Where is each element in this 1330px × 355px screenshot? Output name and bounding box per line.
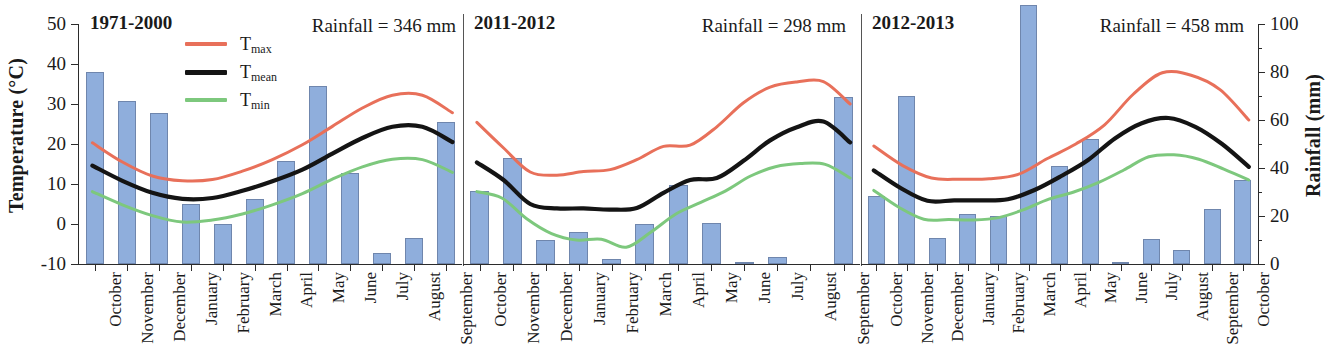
legend-item-Tmax: Tmax xyxy=(185,36,272,52)
x-tick-label-text: May xyxy=(330,272,347,303)
y-tick-mark-left xyxy=(71,264,78,265)
x-tick-label-text: December xyxy=(171,272,188,342)
x-tick-mark xyxy=(446,265,447,271)
legend-swatch-Tmin xyxy=(185,98,227,102)
x-tick-label-text: August xyxy=(1194,272,1211,321)
x-tick-label-text: July xyxy=(1163,272,1180,300)
y-tick-label-left: 10 xyxy=(47,174,66,193)
panel-2012-2013: 2012-2013Rainfall = 458 mmOctoberNovembe… xyxy=(861,0,1258,275)
legend-label-subscript: min xyxy=(251,98,270,112)
x-tick-mark xyxy=(95,265,96,271)
x-tick-mark xyxy=(127,265,128,271)
temperature-curves xyxy=(463,0,860,300)
y-axis-title-right-text: Rainfall (mm) xyxy=(1303,73,1326,196)
x-tick-label-text: September xyxy=(1224,272,1241,345)
legend: TmaxTmeanTmin xyxy=(185,36,305,106)
x-tick-label-text: November xyxy=(525,272,542,344)
y-tick-label-right: 0 xyxy=(1270,254,1280,273)
legend-label-subscript: max xyxy=(251,42,272,56)
legend-swatch-Tmean xyxy=(185,70,227,75)
x-tick-mark xyxy=(998,265,999,271)
x-tick-mark xyxy=(876,265,877,271)
x-tick-mark xyxy=(223,265,224,271)
x-tick-mark xyxy=(907,265,908,271)
x-tick-mark xyxy=(711,265,712,271)
x-tick-mark xyxy=(1090,265,1091,271)
x-tick-mark xyxy=(645,265,646,271)
y-axis-title-left-text: Temperature (°C) xyxy=(6,57,29,212)
x-tick-label-text: October xyxy=(888,272,905,327)
y-tick-label-left: 20 xyxy=(47,134,66,153)
y-tick-mark-left xyxy=(71,144,78,145)
series-line-Tmin xyxy=(874,155,1249,221)
x-tick-mark xyxy=(777,265,778,271)
axis-spine-right xyxy=(1258,24,1259,265)
legend-label-Tmax: Tmax xyxy=(240,35,272,53)
y-tick-mark-left xyxy=(71,224,78,225)
x-tick-mark xyxy=(546,265,547,271)
x-tick-label-text: May xyxy=(723,272,740,303)
panel-2011-2012: 2011-2012Rainfall = 298 mmOctoberNovembe… xyxy=(463,0,860,275)
x-tick-mark xyxy=(810,265,811,271)
series-line-Tmean xyxy=(874,118,1249,202)
y-axis-title-left: Temperature (°C) xyxy=(2,0,32,270)
x-tick-mark xyxy=(159,265,160,271)
climate-chart-figure: Temperature (°C) Rainfall (mm) 504030201… xyxy=(0,0,1330,355)
x-tick-label-text: March xyxy=(1041,272,1058,316)
x-tick-mark xyxy=(937,265,938,271)
y-tick-mark-right xyxy=(1258,72,1265,73)
x-tick-label-text: March xyxy=(657,272,674,316)
x-tick-label-text: April xyxy=(298,272,315,308)
x-tick-mark xyxy=(414,265,415,271)
y-tick-mark-left xyxy=(71,64,78,65)
x-tick-mark xyxy=(744,265,745,271)
y-tick-label-left: 0 xyxy=(57,214,67,233)
x-tick-mark xyxy=(1121,265,1122,271)
y-tick-label-left: 50 xyxy=(47,14,66,33)
legend-item-Tmin: Tmin xyxy=(185,92,270,108)
x-axis-labels: OctoberNovemberDecemberJanuaryFebruaryMa… xyxy=(463,272,860,355)
x-axis-labels: OctoberNovemberDecemberJanuaryFebruaryMa… xyxy=(861,272,1258,355)
x-tick-mark xyxy=(1182,265,1183,271)
x-tick-label-text: January xyxy=(203,272,220,325)
x-tick-mark xyxy=(1243,265,1244,271)
x-tick-label-text: February xyxy=(235,272,252,333)
x-tick-label-text: March xyxy=(267,272,284,316)
y-tick-label-left: -10 xyxy=(41,254,66,273)
x-tick-label-text: August xyxy=(822,272,839,321)
x-tick-mark xyxy=(287,265,288,271)
y-tick-label-right: 80 xyxy=(1270,62,1289,81)
legend-label-Tmean: Tmean xyxy=(240,63,277,81)
y-tick-label-right: 20 xyxy=(1270,206,1289,225)
x-tick-label-text: October xyxy=(107,272,124,327)
y-axis-right: 100806040200 xyxy=(1258,0,1304,275)
series-line-Tmean xyxy=(92,125,452,199)
x-tick-label-text: October xyxy=(1255,272,1272,327)
x-tick-label-text: January xyxy=(980,272,997,325)
x-tick-label-text: July xyxy=(789,272,806,300)
x-tick-label-text: November xyxy=(139,272,156,344)
legend-swatch-Tmax xyxy=(185,42,227,46)
x-tick-label-text: May xyxy=(1102,272,1119,303)
legend-label-Tmin: Tmin xyxy=(240,91,270,109)
axis-spine-left xyxy=(78,24,79,265)
y-tick-mark-right xyxy=(1258,24,1265,25)
x-tick-label-text: October xyxy=(492,272,509,327)
y-tick-mark-right xyxy=(1258,216,1265,217)
x-tick-mark xyxy=(844,265,845,271)
x-tick-label-text: August xyxy=(426,272,443,321)
series-line-Tmax xyxy=(92,93,452,181)
x-tick-label-text: November xyxy=(919,272,936,344)
x-tick-mark xyxy=(480,265,481,271)
y-tick-label-left: 30 xyxy=(47,94,66,113)
x-tick-label-text: February xyxy=(624,272,641,333)
x-tick-mark xyxy=(1151,265,1152,271)
x-tick-mark xyxy=(579,265,580,271)
y-tick-label-left: 40 xyxy=(47,54,66,73)
x-tick-label-text: June xyxy=(1133,272,1150,303)
x-tick-mark xyxy=(513,265,514,271)
y-tick-mark-left xyxy=(71,104,78,105)
x-tick-mark xyxy=(1212,265,1213,271)
y-tick-label-right: 100 xyxy=(1270,14,1299,33)
y-tick-mark-left xyxy=(71,24,78,25)
